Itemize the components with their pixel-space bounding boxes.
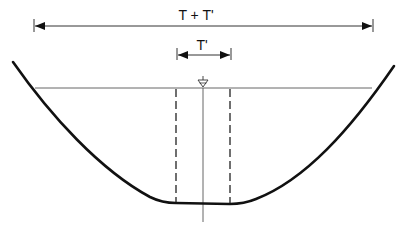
total-width-dimension: T + T' — [34, 7, 373, 32]
water-surface-triangle-icon — [198, 76, 208, 87]
channel-cross-section-diagram: T + T' T' — [0, 0, 407, 239]
partial-width-label: T' — [196, 37, 207, 53]
total-width-label: T + T' — [178, 7, 213, 23]
partial-width-dimension: T' — [177, 37, 231, 60]
